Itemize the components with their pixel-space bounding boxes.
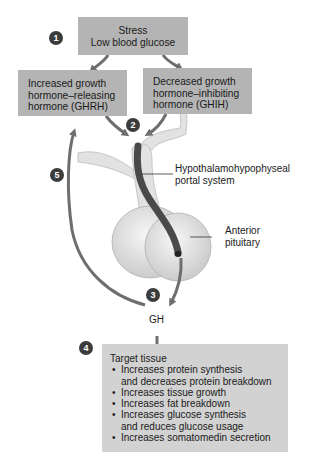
stimulus-line2: Low blood glucose — [78, 37, 188, 49]
effect-item: Increases glucose synthesis and reduces … — [110, 409, 288, 432]
ghih-box: Decreased growth hormone–inhibiting horm… — [143, 68, 252, 114]
effect-item: Increases somatomedin secretion — [110, 432, 288, 443]
ghih-line1: Decreased growth — [153, 76, 252, 88]
target-tissue-box: Target tissue Increases protein synthesi… — [102, 344, 288, 452]
step-4-badge: 4 — [79, 341, 93, 355]
effect-item: Increases protein synthesis and decrease… — [110, 364, 288, 387]
target-title: Target tissue — [110, 353, 288, 364]
ghrh-line3: hormone (GHRH) — [28, 101, 127, 113]
step-3-badge: 3 — [146, 288, 160, 302]
stimulus-box: Stress Low blood glucose — [78, 17, 188, 55]
effect-item: Increases tissue growth — [110, 387, 288, 398]
ghrh-line1: Increased growth — [28, 78, 127, 90]
step-5-badge: 5 — [50, 168, 64, 182]
portal-system-label: Hypothalamohypophyseal portal system — [175, 163, 290, 186]
ghrh-box: Increased growth hormone–releasing hormo… — [18, 70, 127, 116]
gh-label: GH — [149, 314, 164, 326]
stimulus-line1: Stress — [78, 25, 188, 37]
effect-item: Increases fat breakdown — [110, 398, 288, 409]
effects-list: Increases protein synthesis and decrease… — [110, 364, 288, 443]
ghih-line3: hormone (GHIH) — [153, 99, 252, 111]
anterior-pituitary-label: Anterior pituitary — [225, 225, 260, 248]
step-2-badge: 2 — [126, 118, 140, 132]
step-1-badge: 1 — [49, 31, 63, 45]
ghrh-line2: hormone–releasing — [28, 90, 127, 102]
ghih-line2: hormone–inhibiting — [153, 88, 252, 100]
